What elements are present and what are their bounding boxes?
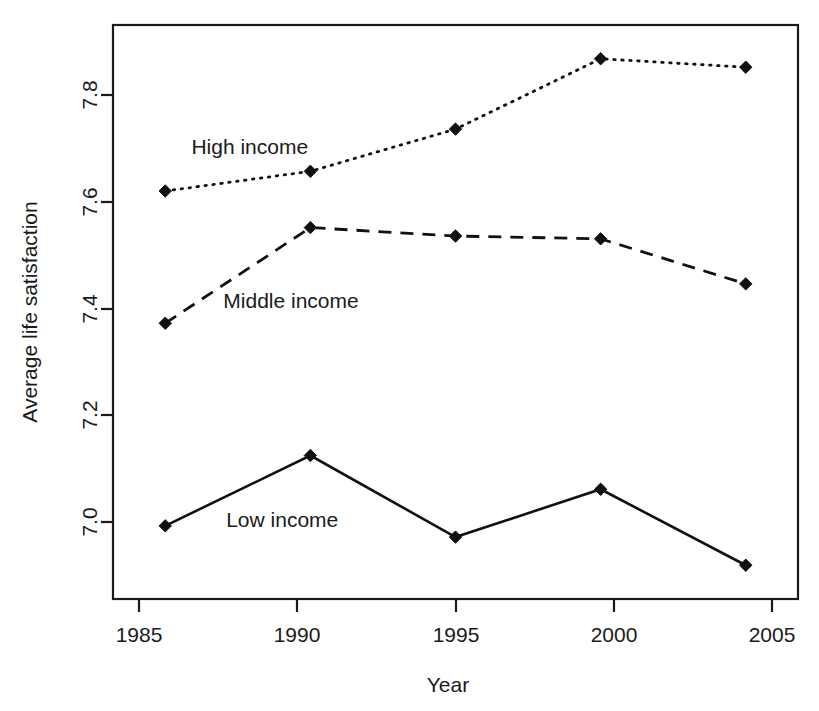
series-annotation-middle-income: Middle income (223, 289, 358, 312)
y-axis-title: Average life satisfaction (18, 201, 41, 422)
data-point-marker (740, 61, 752, 73)
data-point-marker (449, 531, 461, 543)
y-tick-label-3: 7.6 (78, 187, 101, 216)
y-axis-ticks (101, 95, 113, 522)
series-annotation-high-income: High income (191, 135, 308, 158)
data-point-marker (159, 520, 171, 532)
data-point-marker (304, 221, 316, 233)
data-point-marker (740, 559, 752, 571)
plot-frame (113, 25, 798, 599)
data-point-marker (159, 185, 171, 197)
x-tick-label-2: 1995 (433, 623, 480, 646)
data-point-marker (594, 233, 606, 245)
data-point-marker (594, 483, 606, 495)
x-tick-label-4: 2005 (749, 623, 796, 646)
y-tick-label-1: 7.2 (78, 400, 101, 429)
x-tick-label-0: 1985 (116, 623, 163, 646)
data-point-marker (304, 449, 316, 461)
data-point-marker (740, 278, 752, 290)
y-axis-tick-labels: 7.0 7.2 7.4 7.6 7.8 (78, 80, 101, 536)
series-annotation-low-income: Low income (226, 508, 338, 531)
x-axis-title: Year (427, 673, 469, 696)
x-axis-tick-labels: 1985 1990 1995 2000 2005 (116, 623, 796, 646)
data-point-marker (449, 123, 461, 135)
series-middle-income (159, 221, 752, 329)
data-point-marker (304, 165, 316, 177)
y-tick-label-4: 7.8 (78, 80, 101, 109)
y-tick-label-0: 7.0 (78, 507, 101, 536)
line-chart: 7.0 7.2 7.4 7.6 7.8 1985 1990 1995 2000 … (0, 0, 819, 711)
x-tick-label-3: 2000 (591, 623, 638, 646)
data-point-marker (594, 53, 606, 65)
chart-page: 7.0 7.2 7.4 7.6 7.8 1985 1990 1995 2000 … (0, 0, 819, 711)
series-high-income (159, 53, 752, 198)
x-tick-label-1: 1990 (274, 623, 321, 646)
y-tick-label-2: 7.4 (78, 294, 101, 324)
data-point-marker (449, 230, 461, 242)
x-axis-ticks (139, 599, 772, 612)
series-layer (159, 53, 752, 572)
